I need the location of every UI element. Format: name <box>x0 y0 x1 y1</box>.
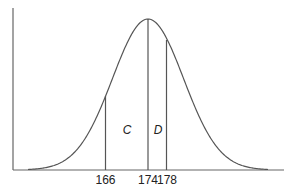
tick-label-178: 178 <box>157 173 177 187</box>
region-label-d: D <box>154 123 163 137</box>
region-label-c: C <box>123 123 132 137</box>
tick-label-174: 174 <box>138 173 158 187</box>
normal-curve-diagram: 166 174 178 C D <box>0 0 293 196</box>
tick-label-166: 166 <box>95 173 115 187</box>
